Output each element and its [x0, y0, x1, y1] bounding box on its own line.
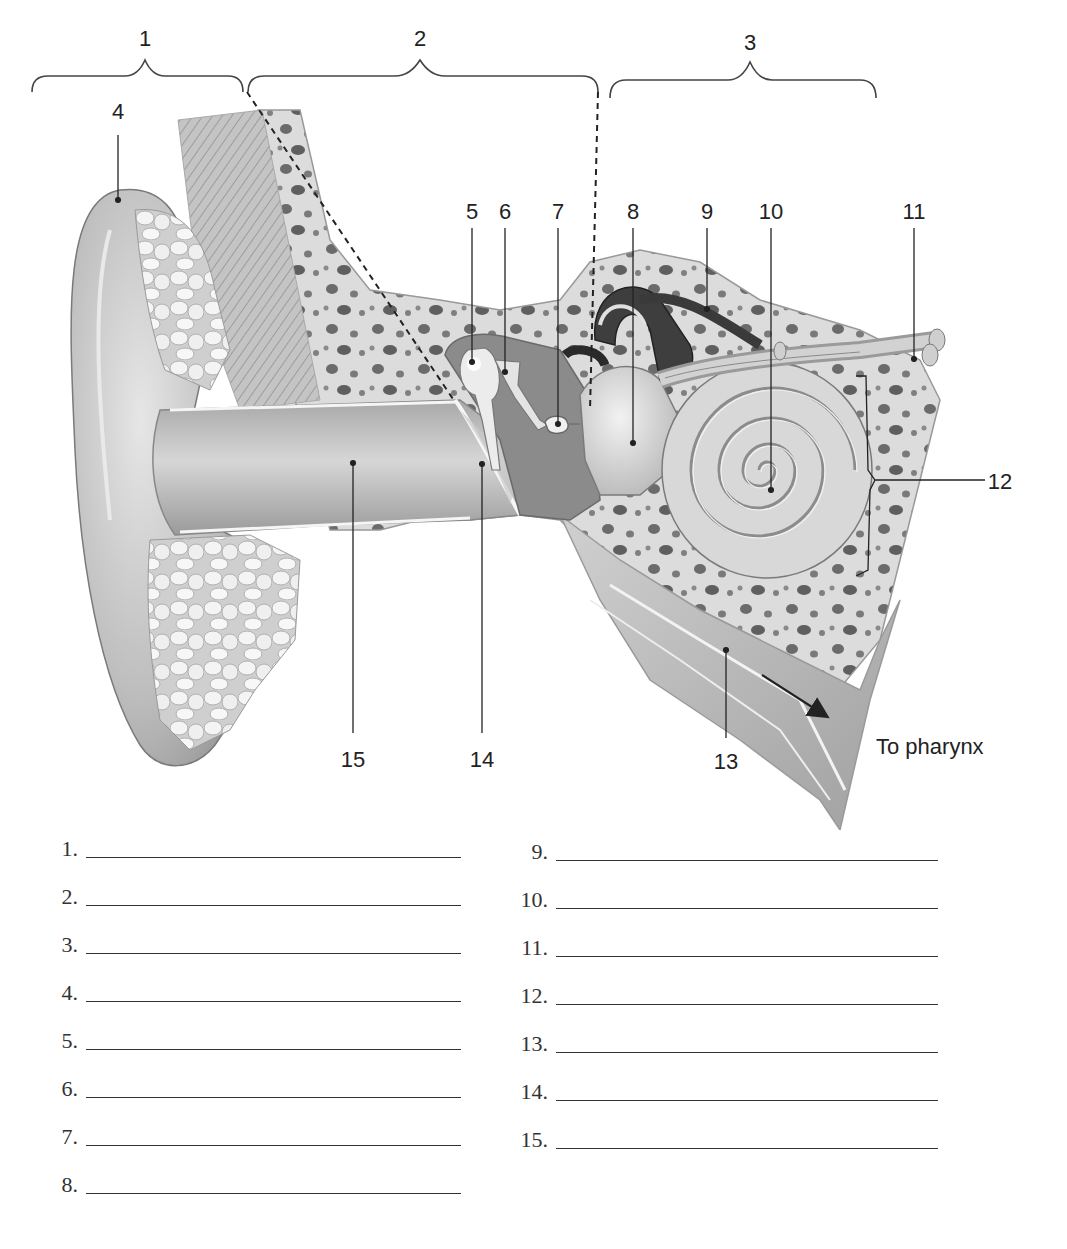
structure-label-10: 10: [759, 201, 783, 223]
answer-row-14[interactable]: 14.: [500, 1081, 938, 1103]
region-brackets: [32, 60, 876, 98]
structure-label-15: 15: [341, 749, 365, 771]
answer-number: 2.: [30, 886, 86, 908]
structure-label-4: 4: [112, 101, 124, 123]
region-label-3: 3: [744, 32, 756, 54]
answer-number: 8.: [30, 1174, 86, 1196]
answer-row-5[interactable]: 5.: [30, 1030, 461, 1052]
structure-label-8: 8: [627, 201, 639, 223]
answer-blank-9[interactable]: [556, 860, 938, 861]
answer-number: 5.: [30, 1030, 86, 1052]
answer-row-6[interactable]: 6.: [30, 1078, 461, 1100]
bracket-3: [610, 62, 876, 98]
structure-label-13: 13: [714, 751, 738, 773]
answer-blank-10[interactable]: [556, 908, 938, 909]
answer-blank-8[interactable]: [86, 1193, 461, 1194]
answer-blank-5[interactable]: [86, 1049, 461, 1050]
structure-label-5: 5: [466, 201, 478, 223]
answer-number: 3.: [30, 934, 86, 956]
answer-blank-4[interactable]: [86, 1001, 461, 1002]
answer-number: 15.: [500, 1129, 556, 1151]
answer-row-2[interactable]: 2.: [30, 886, 461, 908]
bracket-1: [32, 60, 243, 92]
bracket-2: [248, 60, 598, 92]
answer-number: 1.: [30, 838, 86, 860]
auricle-cartilage-fat-lower: [148, 535, 300, 750]
answer-number: 13.: [500, 1033, 556, 1055]
external-acoustic-meatus: [153, 400, 520, 535]
answer-number: 14.: [500, 1081, 556, 1103]
structure-label-9: 9: [701, 201, 713, 223]
answer-row-7[interactable]: 7.: [30, 1126, 461, 1148]
answer-number: 7.: [30, 1126, 86, 1148]
cochlea: [662, 362, 872, 578]
answer-blank-1[interactable]: [86, 857, 461, 858]
to-pharynx-annotation: To pharynx: [876, 736, 984, 758]
answer-row-10[interactable]: 10.: [500, 889, 938, 911]
answer-number: 9.: [500, 841, 556, 863]
answer-blank-13[interactable]: [556, 1052, 938, 1053]
region-label-1: 1: [139, 28, 151, 50]
answer-blank-3[interactable]: [86, 953, 461, 954]
structure-label-6: 6: [499, 201, 511, 223]
answer-blank-14[interactable]: [556, 1100, 938, 1101]
structure-label-7: 7: [552, 201, 564, 223]
answer-number: 4.: [30, 982, 86, 1004]
region-label-2: 2: [414, 28, 426, 50]
answer-number: 6.: [30, 1078, 86, 1100]
answer-row-15[interactable]: 15.: [500, 1129, 938, 1151]
ear-illustration: [0, 0, 1067, 830]
answer-row-13[interactable]: 13.: [500, 1033, 938, 1055]
answer-row-12[interactable]: 12.: [500, 985, 938, 1007]
answer-number: 10.: [500, 889, 556, 911]
ear-diagram: 1 2 3 4 5 6 7 8 9 10 11 12 13 14 15 To p…: [0, 0, 1067, 830]
answer-row-9[interactable]: 9.: [500, 841, 938, 863]
answer-row-8[interactable]: 8.: [30, 1174, 461, 1196]
answer-row-4[interactable]: 4.: [30, 982, 461, 1004]
structure-label-11: 11: [903, 201, 926, 223]
answer-number: 11.: [500, 937, 556, 959]
answer-row-1[interactable]: 1.: [30, 838, 461, 860]
answer-row-11[interactable]: 11.: [500, 937, 938, 959]
answer-blank-2[interactable]: [86, 905, 461, 906]
answer-blank-12[interactable]: [556, 1004, 938, 1005]
answer-number: 12.: [500, 985, 556, 1007]
answer-blank-7[interactable]: [86, 1145, 461, 1146]
answer-blank-15[interactable]: [556, 1148, 938, 1149]
answer-blank-6[interactable]: [86, 1097, 461, 1098]
answer-blank-11[interactable]: [556, 956, 938, 957]
structure-label-12: 12: [988, 471, 1012, 493]
structure-label-14: 14: [470, 749, 494, 771]
answer-row-3[interactable]: 3.: [30, 934, 461, 956]
